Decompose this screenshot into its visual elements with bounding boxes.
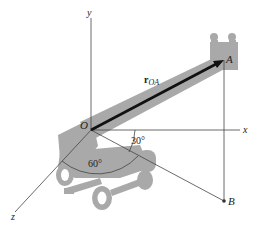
vector-label: rOA (144, 74, 159, 87)
angle-30-label: 30° (131, 135, 145, 146)
vector-subscript: OA (148, 78, 159, 87)
z-axis-label: z (10, 211, 15, 222)
point-b-label: B (228, 195, 235, 207)
diagram-canvas: y x z O A B rOA 30° 60° (0, 0, 256, 227)
y-axis-label: y (86, 7, 92, 18)
point-a-label: A (225, 53, 233, 65)
angle-60-label: 60° (88, 158, 102, 169)
vector-r-oa (91, 60, 224, 130)
point-b-dot (222, 199, 226, 203)
x-axis-label: x (242, 124, 248, 135)
origin-label: O (80, 119, 88, 131)
